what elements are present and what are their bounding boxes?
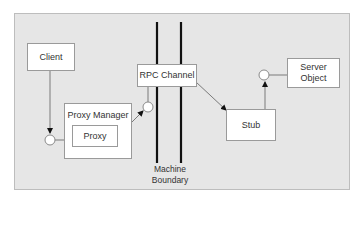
channel-interface-icon [143, 102, 153, 112]
machine-boundary-line1: Machine [145, 164, 195, 175]
proxy-node: Proxy [72, 125, 118, 147]
client-label: Client [39, 52, 62, 63]
channel-to-stub-arrow [196, 82, 226, 110]
machine-boundary-label: Machine Boundary [145, 164, 195, 186]
rpc-channel-label: RPC Channel [139, 70, 194, 81]
server-object-node: Server Object [287, 58, 340, 88]
machine-boundary-line2: Boundary [145, 175, 195, 186]
server-object-label-line1: Server [300, 62, 327, 73]
server-object-label-line2: Object [300, 73, 326, 84]
client-node: Client [27, 43, 75, 71]
proxy-manager-label: Proxy Manager [67, 110, 128, 121]
server-interface-icon [259, 70, 269, 80]
stub-node: Stub [226, 109, 276, 141]
stub-label: Stub [242, 120, 261, 131]
proxy-interface-icon [45, 135, 55, 145]
rpc-channel-node: RPC Channel [137, 64, 197, 87]
proxy-label: Proxy [83, 131, 106, 142]
